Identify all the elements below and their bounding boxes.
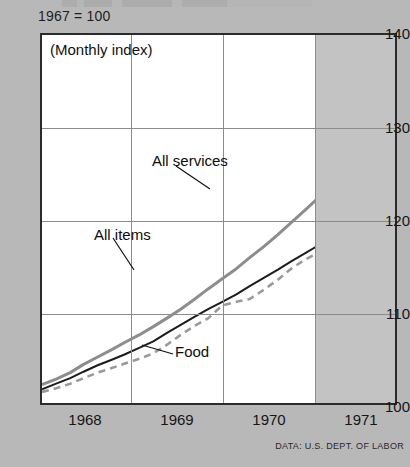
gridline-vertical-1969 [131, 35, 132, 403]
chart-plot-area: (Monthly index) [40, 33, 397, 405]
series-label-all-items: All items [94, 226, 151, 243]
cut-off-headline-remnant [62, 0, 312, 7]
y-axis-tick-140: 140 [374, 25, 410, 42]
y-axis-tick-130: 130 [374, 119, 410, 136]
chart-subtitle: (Monthly index) [50, 41, 153, 58]
data-source-note: DATA: U.S. DEPT. OF LABOR [275, 441, 404, 451]
gridline-vertical-1970 [223, 35, 224, 403]
series-label-food: Food [175, 343, 209, 360]
x-axis-tick-1970: 1970 [234, 411, 304, 428]
x-axis-tick-1968: 1968 [50, 411, 120, 428]
index-base-note: 1967 = 100 [38, 8, 110, 24]
gridline-vertical-1971 [315, 35, 316, 403]
gridline-horizontal-130 [42, 128, 395, 129]
x-axis-tick-1971: 1971 [326, 411, 396, 428]
y-axis-tick-120: 120 [374, 212, 410, 229]
y-axis-tick-110: 110 [374, 305, 410, 322]
series-label-all-services: All services [152, 152, 228, 169]
x-axis-tick-1969: 1969 [142, 411, 212, 428]
gridline-horizontal-110 [42, 314, 395, 315]
gridline-horizontal-120 [42, 221, 395, 222]
